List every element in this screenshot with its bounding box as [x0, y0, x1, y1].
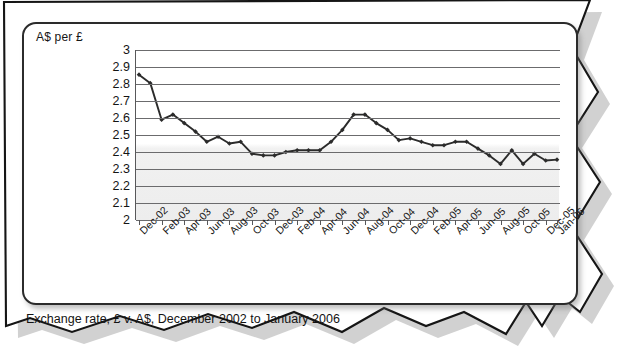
data-point-marker	[453, 140, 458, 145]
y-axis-tick-label: 2.6	[113, 111, 130, 125]
plot-area: 22.12.22.32.42.52.62.72.82.93Dec-02Feb-0…	[135, 50, 559, 220]
y-axis-tick-label: 2.1	[113, 196, 130, 210]
chart-caption: Exchange rate, £ v. A$, December 2002 to…	[26, 312, 546, 326]
gridline	[136, 84, 560, 85]
y-axis-tick-label: 2.2	[113, 179, 130, 193]
gridline	[136, 50, 560, 51]
gridline	[136, 135, 560, 136]
y-axis-tick-label: 2	[123, 213, 130, 227]
gridline	[136, 186, 560, 187]
data-point-marker	[442, 143, 447, 148]
gridline	[136, 118, 560, 119]
y-axis-tick-label: 2.9	[113, 60, 130, 74]
gridline	[136, 169, 560, 170]
data-point-marker	[261, 153, 266, 158]
data-point-marker	[408, 136, 413, 141]
chart-card: A$ per £ 22.12.22.32.42.52.62.72.82.93De…	[22, 22, 578, 305]
series-line	[139, 75, 557, 164]
data-point-marker	[555, 157, 560, 162]
gridline	[136, 101, 560, 102]
y-axis-tick-label: 3	[123, 43, 130, 57]
y-axis-tick-label: 2.3	[113, 162, 130, 176]
data-point-marker	[430, 143, 435, 148]
y-axis-tick-label: 2.7	[113, 94, 130, 108]
y-axis-tick-label: 2.8	[113, 77, 130, 91]
page-root: A$ per £ 22.12.22.32.42.52.62.72.82.93De…	[0, 0, 628, 359]
gridline	[136, 67, 560, 68]
gridline	[136, 152, 560, 153]
y-axis-title: A$ per £	[36, 30, 83, 44]
gridline	[136, 203, 560, 204]
data-point-marker	[272, 153, 277, 158]
y-axis-tick-label: 2.5	[113, 128, 130, 142]
y-axis-tick-label: 2.4	[113, 145, 130, 159]
data-point-marker	[419, 140, 424, 145]
